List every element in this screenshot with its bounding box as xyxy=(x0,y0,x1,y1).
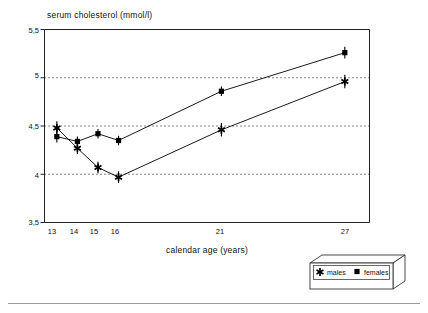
page-divider-rule xyxy=(8,303,420,304)
x-tick-label-14: 14 xyxy=(70,227,78,236)
data-point xyxy=(75,139,80,144)
chart-title: serum cholesterol (mmol/l) xyxy=(47,10,152,20)
y-tick-label-5-5: 5,5 xyxy=(29,26,39,35)
x-tick-label-27: 27 xyxy=(341,227,349,236)
data-point xyxy=(219,89,224,94)
x-tick-label-15: 15 xyxy=(90,227,98,236)
data-point xyxy=(54,134,59,139)
x-tick-label-13: 13 xyxy=(48,227,56,236)
data-point xyxy=(116,138,121,143)
legend-label-females: females xyxy=(364,269,389,276)
x-tick-label-16: 16 xyxy=(111,227,119,236)
y-tick-label-4: 4 xyxy=(35,171,39,180)
y-axis-tick-group xyxy=(41,30,45,223)
legend-marker-females xyxy=(354,269,359,274)
y-tick-label-4-5: 4,5 xyxy=(29,122,39,131)
x-axis-title: calendar age (years) xyxy=(166,245,248,255)
figure-container: 5,5 5 4,5 4 3,5 13 14 15 16 21 27 serum … xyxy=(0,0,428,313)
data-point xyxy=(95,131,100,136)
legend-label-males: males xyxy=(327,269,346,276)
cholesterol-line-chart: 5,5 5 4,5 4 3,5 13 14 15 16 21 27 serum … xyxy=(0,0,428,313)
y-tick-label-3-5: 3,5 xyxy=(29,218,39,227)
x-tick-label-21: 21 xyxy=(216,227,224,236)
y-tick-label-5: 5 xyxy=(35,71,39,80)
data-point xyxy=(342,50,347,55)
